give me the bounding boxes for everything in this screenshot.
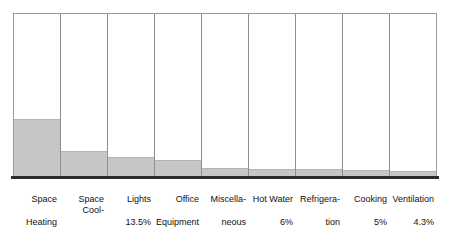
category-label-name: Hot Water <box>251 194 293 206</box>
category-labels-row: Space Heating 34.1% Space Cool- ing 15.1… <box>13 182 437 226</box>
category-label-name: Ventilation <box>392 194 434 206</box>
bar-column-cooking <box>343 14 390 176</box>
bar-column-miscellaneous <box>202 14 249 176</box>
bar-column-ventilation <box>390 14 436 176</box>
bar-fill-lights <box>108 157 154 176</box>
baseline-axis <box>11 176 439 179</box>
category-label-name: Space <box>15 194 57 206</box>
category-label-percent: 13.5% <box>109 217 151 229</box>
bar-column-lights <box>108 14 155 176</box>
category-label-hot-water: Hot Water 6% <box>249 182 296 226</box>
category-label-office-equipment: Office Equipment 10.5% <box>154 182 202 226</box>
category-label-name-cont: Equipment <box>156 217 199 229</box>
category-label-ventilation: Ventilation 4.3% <box>390 182 437 226</box>
category-label-name: Space Cool- <box>62 194 104 217</box>
category-label-name: Office <box>156 194 199 206</box>
category-label-percent: 6% <box>251 217 293 229</box>
plot-area <box>13 13 437 176</box>
category-label-name-cont: tion <box>298 217 340 229</box>
bar-fill-space-cooling <box>61 151 107 176</box>
category-label-name: Refrigera- <box>298 194 340 206</box>
category-label-percent: 4.3% <box>392 217 434 229</box>
bar-fill-office-equipment <box>155 160 201 176</box>
bar-column-refrigeration <box>296 14 343 176</box>
category-label-refrigeration: Refrigera- tion 5% <box>296 182 343 226</box>
category-label-cooking: Cooking 5% <box>343 182 390 226</box>
category-label-space-cooling: Space Cool- ing 15.1% <box>60 182 107 226</box>
bar-fill-space-heating <box>14 119 60 176</box>
bar-fill-hot-water <box>249 169 295 176</box>
bar-fill-miscellaneous <box>202 168 248 176</box>
category-label-name-cont: Heating <box>15 217 57 229</box>
bar-column-space-heating <box>14 14 61 176</box>
bar-chart: Space Heating 34.1% Space Cool- ing 15.1… <box>0 0 455 228</box>
bar-column-office-equipment <box>155 14 202 176</box>
category-label-name: Cooking <box>345 194 387 206</box>
category-label-name: Miscella- <box>204 194 246 206</box>
category-label-percent: 5% <box>345 217 387 229</box>
bar-column-hot-water <box>249 14 296 176</box>
category-label-space-heating: Space Heating 34.1% <box>13 182 60 226</box>
category-label-miscellaneous: Miscella- neous 6.5% <box>202 182 249 226</box>
bar-column-space-cooling <box>61 14 108 176</box>
category-label-lights: Lights 13.5% <box>107 182 154 226</box>
bar-fill-refrigeration <box>296 169 342 176</box>
category-label-name-cont: neous <box>204 217 246 229</box>
category-label-name: Lights <box>109 194 151 206</box>
